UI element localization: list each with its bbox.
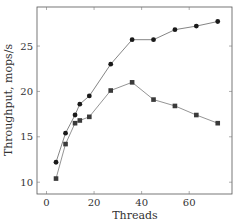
square-marker (54, 176, 59, 181)
circle-marker (77, 102, 82, 107)
circle-marker (54, 160, 59, 165)
circle-marker (87, 94, 92, 99)
plot-frame (37, 7, 232, 194)
x-tick-label: 20 (88, 197, 101, 208)
circle-marker (73, 113, 78, 118)
square-marker (173, 104, 178, 109)
square-marker (194, 113, 199, 118)
circle-series (54, 19, 221, 165)
series-line (56, 22, 218, 163)
square-marker (130, 80, 135, 85)
circle-marker (194, 24, 199, 29)
y-tick-label: 15 (20, 131, 33, 142)
x-axis-label: Threads (112, 209, 158, 222)
circle-marker (63, 131, 68, 136)
square-marker (215, 121, 220, 126)
square-series (54, 80, 220, 181)
y-axis-label: Throughput, mops/s (2, 44, 15, 156)
y-axis-ticks: 10152025 (20, 41, 232, 188)
square-marker (78, 118, 83, 123)
square-marker (73, 121, 78, 126)
series-layer (54, 19, 221, 181)
square-marker (63, 142, 68, 147)
circle-marker (151, 37, 156, 42)
circle-marker (130, 37, 135, 42)
x-tick-label: 0 (43, 197, 49, 208)
square-marker (87, 115, 92, 120)
throughput-chart: 0204060 10152025 Threads Throughput, mop… (0, 0, 237, 224)
x-tick-label: 40 (135, 197, 148, 208)
square-marker (151, 97, 156, 102)
circle-marker (173, 27, 178, 32)
y-tick-label: 25 (20, 41, 33, 52)
circle-marker (108, 62, 113, 67)
square-marker (108, 88, 113, 93)
circle-marker (215, 19, 220, 24)
y-tick-label: 10 (20, 177, 33, 188)
x-tick-label: 60 (183, 197, 196, 208)
y-tick-label: 20 (20, 86, 33, 97)
series-line (56, 82, 218, 178)
